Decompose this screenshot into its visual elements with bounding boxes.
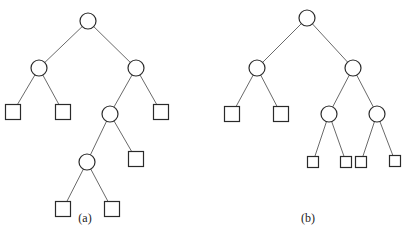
tree-edge — [257, 18, 307, 68]
tree-edge — [307, 18, 353, 68]
internal-node-circle — [345, 60, 361, 76]
leaf-node-square — [6, 105, 21, 120]
internal-node-circle — [102, 106, 118, 122]
tree-a-edges — [13, 21, 161, 209]
leaf-node-square — [390, 156, 401, 167]
tree-edge — [39, 21, 88, 68]
binary-trees-diagram: (a) (b) — [0, 0, 407, 228]
tree-b-nodes — [225, 10, 401, 168]
internal-node-circle — [369, 106, 385, 122]
leaf-node-square — [56, 202, 71, 217]
internal-node-circle — [80, 13, 96, 29]
leaf-node-square — [154, 105, 169, 120]
leaf-node-square — [308, 157, 319, 168]
tree-b-edges — [232, 18, 395, 162]
tree-b-caption: (b) — [301, 211, 315, 225]
tree-b: (b) — [225, 10, 401, 225]
leaf-node-square — [274, 107, 289, 122]
tree-a-nodes — [6, 13, 169, 217]
internal-node-circle — [31, 60, 47, 76]
leaf-node-square — [56, 105, 71, 120]
leaf-node-square — [105, 202, 120, 217]
leaf-node-square — [225, 107, 240, 122]
leaf-node-square — [129, 152, 144, 167]
internal-node-circle — [128, 60, 144, 76]
leaf-node-square — [356, 157, 367, 168]
internal-node-circle — [321, 106, 337, 122]
internal-node-circle — [299, 10, 315, 26]
tree-edge — [88, 21, 136, 68]
tree-a-caption: (a) — [78, 211, 91, 225]
internal-node-circle — [79, 154, 95, 170]
tree-a: (a) — [6, 13, 169, 225]
internal-node-circle — [249, 60, 265, 76]
leaf-node-square — [341, 157, 352, 168]
